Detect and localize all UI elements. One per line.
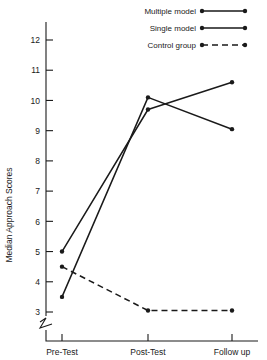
data-point-2-1 (146, 308, 150, 312)
y-tick-label-4: 4 (35, 277, 40, 287)
y-tick-label-9: 9 (35, 126, 40, 136)
y-tick-label-10: 10 (31, 96, 41, 106)
legend-marker-start-2 (200, 43, 204, 47)
data-point-1-2 (230, 80, 234, 84)
data-point-2-2 (230, 308, 234, 312)
y-tick-label-3: 3 (35, 307, 40, 317)
chart-legend: Multiple modelSingle modelControl group (144, 7, 247, 50)
legend-marker-end-2 (243, 43, 247, 47)
data-point-1-0 (60, 249, 64, 253)
legend-marker-end-0 (243, 9, 247, 13)
x-tick-label-1: Post-Test (130, 347, 166, 357)
y-tick-label-7: 7 (35, 186, 40, 196)
y-tick-label-5: 5 (35, 247, 40, 257)
chart-container: 3456789101112 Pre-TestPost-TestFollow up… (0, 0, 267, 360)
x-tick-label-0: Pre-Test (46, 347, 78, 357)
axis-break-symbol (40, 318, 52, 328)
x-axis-ticks: Pre-TestPost-TestFollow up (46, 334, 250, 357)
y-tick-label-11: 11 (31, 65, 40, 75)
series-line-0 (62, 97, 232, 297)
legend-label-0: Multiple model (144, 7, 196, 16)
series-line-2 (62, 267, 232, 311)
legend-marker-end-1 (243, 26, 247, 30)
x-tick-label-2: Follow up (214, 347, 251, 357)
legend-marker-start-1 (200, 26, 204, 30)
y-tick-label-6: 6 (35, 217, 40, 227)
legend-marker-start-0 (200, 9, 204, 13)
series-layer (60, 80, 234, 313)
legend-label-1: Single model (150, 24, 196, 33)
y-tick-label-12: 12 (31, 35, 41, 45)
y-axis-ticks: 3456789101112 (31, 35, 53, 317)
data-point-0-2 (230, 127, 234, 131)
data-point-2-0 (60, 264, 64, 268)
legend-label-2: Control group (148, 41, 197, 50)
data-point-0-0 (60, 295, 64, 299)
y-axis-title: Median Approach Scores (4, 168, 14, 263)
data-point-1-1 (146, 107, 150, 111)
y-tick-label-8: 8 (35, 156, 40, 166)
x-axis-line (46, 330, 258, 341)
data-point-0-1 (146, 95, 150, 99)
median-approach-scores-line-chart: 3456789101112 Pre-TestPost-TestFollow up… (0, 0, 267, 360)
